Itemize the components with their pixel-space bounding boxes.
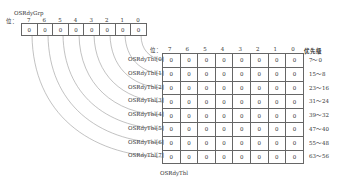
table-row: 00000000: [163, 54, 304, 68]
tbl-bit-cell: 0: [250, 54, 268, 68]
tbl-bit-label: 1: [274, 46, 278, 52]
tbl-bit-label: 2: [256, 46, 260, 52]
tbl-bit-cell: 0: [286, 54, 304, 68]
tbl-bit-cell: 0: [286, 150, 304, 164]
osrdytbl-caption: OSRdyTbl: [160, 170, 188, 176]
table-row: 00000000: [163, 81, 304, 95]
tbl-bit-label: 4: [221, 46, 225, 52]
priority-range: 7～0: [309, 56, 322, 64]
grp-bit-cell: 0: [131, 24, 147, 36]
tbl-bit-cell: 0: [180, 54, 198, 68]
tbl-bit-cell: 0: [198, 54, 216, 68]
grp-bit-cell: 0: [37, 24, 53, 36]
tbl-bit-label: 0: [291, 46, 295, 52]
osrdygrp-register: 00000000: [21, 23, 147, 36]
tbl-bit-cell: 0: [180, 136, 198, 150]
tbl-bit-cell: 0: [268, 136, 286, 150]
grp-bit-cell: 0: [84, 24, 100, 36]
tbl-bit-cell: 0: [233, 150, 251, 164]
grp-bit-prefix: 位：: [6, 17, 18, 25]
tbl-bit-label: 6: [186, 46, 190, 52]
tbl-bit-cell: 0: [163, 109, 181, 123]
tbl-bit-cell: 0: [250, 122, 268, 136]
tbl-bit-cell: 0: [180, 67, 198, 81]
row-label: OSRdyTbl[2]: [128, 84, 164, 90]
tbl-bit-cell: 0: [180, 81, 198, 95]
tbl-bit-cell: 0: [268, 109, 286, 123]
priority-range: 47～40: [309, 125, 329, 133]
table-row: 00000000: [163, 136, 304, 150]
grp-bit-cell: 0: [53, 24, 69, 36]
tbl-bit-label: 3: [238, 46, 242, 52]
tbl-bit-cell: 0: [163, 67, 181, 81]
tbl-bit-cell: 0: [215, 122, 233, 136]
table-row: 00000000: [163, 109, 304, 123]
grp-bit-cell: 0: [99, 24, 115, 36]
tbl-bit-cell: 0: [198, 122, 216, 136]
tbl-bit-cell: 0: [268, 67, 286, 81]
row-label: OSRdyTbl[5]: [128, 125, 164, 131]
tbl-bit-cell: 0: [286, 95, 304, 109]
tbl-bit-cell: 0: [198, 109, 216, 123]
row-label: OSRdyTbl[6]: [128, 139, 164, 145]
tbl-bit-cell: 0: [250, 95, 268, 109]
tbl-bit-cell: 0: [198, 95, 216, 109]
tbl-bit-cell: 0: [268, 81, 286, 95]
tbl-bit-cell: 0: [233, 67, 251, 81]
tbl-bit-cell: 0: [163, 54, 181, 68]
tbl-bit-label: 7: [168, 46, 172, 52]
tbl-bit-cell: 0: [286, 122, 304, 136]
tbl-bit-cell: 0: [215, 67, 233, 81]
osrdytbl-table: 0000000000000000000000000000000000000000…: [162, 53, 304, 164]
table-row: 00000000: [163, 95, 304, 109]
tbl-bit-cell: 0: [233, 136, 251, 150]
tbl-bit-cell: 0: [250, 150, 268, 164]
priority-range: 23～16: [309, 84, 329, 92]
priority-range: 31～24: [309, 97, 329, 105]
tbl-bit-prefix: 位：: [150, 46, 162, 54]
row-label: OSRdyTbl[7]: [128, 152, 164, 158]
tbl-bit-cell: 0: [198, 81, 216, 95]
tbl-bit-cell: 0: [198, 150, 216, 164]
tbl-bit-cell: 0: [268, 122, 286, 136]
tbl-bit-cell: 0: [215, 95, 233, 109]
tbl-bit-cell: 0: [180, 150, 198, 164]
tbl-bit-cell: 0: [250, 136, 268, 150]
tbl-bit-cell: 0: [286, 136, 304, 150]
tbl-bit-cell: 0: [233, 81, 251, 95]
grp-bit-cell: 0: [115, 24, 131, 36]
priority-range: 39～32: [309, 111, 329, 119]
tbl-bit-cell: 0: [215, 109, 233, 123]
tbl-bit-cell: 0: [163, 81, 181, 95]
row-label: OSRdyTbl[1]: [128, 70, 164, 76]
table-row: 00000000: [163, 150, 304, 164]
tbl-bit-cell: 0: [215, 136, 233, 150]
tbl-bit-cell: 0: [268, 54, 286, 68]
table-row: 00000000: [163, 122, 304, 136]
row-label: OSRdyTbl[3]: [128, 97, 164, 103]
tbl-bit-label: 5: [203, 46, 207, 52]
priority-header: 优先级: [304, 47, 322, 55]
tbl-bit-cell: 0: [180, 109, 198, 123]
tbl-bit-cell: 0: [268, 95, 286, 109]
tbl-bit-cell: 0: [163, 150, 181, 164]
tbl-bit-cell: 0: [268, 150, 286, 164]
tbl-bit-cell: 0: [250, 81, 268, 95]
tbl-bit-cell: 0: [215, 150, 233, 164]
row-label: OSRdyTbl[4]: [128, 111, 164, 117]
tbl-bit-cell: 0: [250, 109, 268, 123]
tbl-bit-cell: 0: [233, 109, 251, 123]
tbl-bit-cell: 0: [198, 67, 216, 81]
grp-bit-cell: 0: [22, 24, 38, 36]
tbl-bit-cell: 0: [215, 54, 233, 68]
tbl-bit-cell: 0: [215, 81, 233, 95]
tbl-bit-cell: 0: [233, 54, 251, 68]
tbl-bit-cell: 0: [250, 67, 268, 81]
tbl-bit-cell: 0: [286, 81, 304, 95]
tbl-bit-cell: 0: [163, 95, 181, 109]
tbl-bit-cell: 0: [286, 67, 304, 81]
tbl-bit-cell: 0: [233, 95, 251, 109]
table-row: 00000000: [163, 67, 304, 81]
row-label: OSRdyTbl[0]: [128, 56, 164, 62]
tbl-bit-cell: 0: [163, 122, 181, 136]
